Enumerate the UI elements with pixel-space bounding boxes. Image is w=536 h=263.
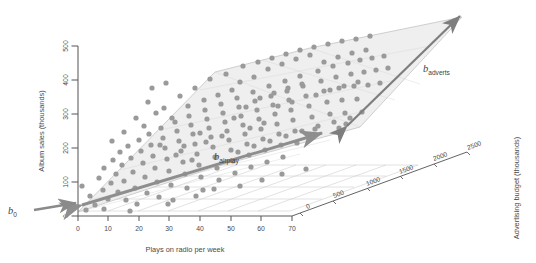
plane-surface — [78, 17, 462, 212]
y-axis-title: Album sales (thousands) — [37, 90, 46, 171]
z-axis-spine — [292, 152, 467, 216]
y-tick-label-400: 400 — [62, 74, 69, 86]
y-tick-label-300: 300 — [62, 108, 69, 120]
regression-plane — [78, 17, 462, 212]
y-tick-label-100: 100 — [62, 176, 69, 188]
x-axis: 0 10 20 30 40 50 60 70 Plays on radio pe… — [76, 216, 296, 254]
x-tick-label-10: 10 — [104, 225, 112, 232]
x-tick-label-70: 70 — [288, 225, 296, 232]
x-tick-label-0: 0 — [76, 225, 80, 232]
b0-arrow — [34, 203, 76, 210]
b-airplay-subscript: airplay — [219, 157, 239, 165]
z-axis-ticks — [300, 152, 470, 216]
y-tick-label-500: 500 — [62, 40, 69, 52]
y-axis: 0 100 200 300 400 500 Album sales (thous… — [37, 40, 78, 218]
x-axis-ticks — [78, 216, 292, 221]
x-tick-label-30: 30 — [165, 225, 173, 232]
b-adverts-subscript: adverts — [428, 69, 450, 76]
b-adverts-label: badverts — [423, 63, 451, 76]
y-tick-label-0: 0 — [62, 214, 69, 218]
x-axis-title: Plays on radio per week — [146, 245, 225, 254]
x-tick-label-40: 40 — [196, 225, 204, 232]
y-axis-ticks — [72, 46, 79, 216]
x-tick-label-50: 50 — [227, 225, 235, 232]
b0-label: b0 — [8, 205, 17, 218]
x-tick-label-60: 60 — [257, 225, 265, 232]
z-tick-label-2500: 2500 — [466, 139, 482, 151]
x-tick-label-20: 20 — [135, 225, 143, 232]
plot-canvas: 0 100 200 300 400 500 Album sales (thous… — [0, 0, 536, 263]
z-tick-label-1000: 1000 — [365, 175, 381, 187]
z-axis-title: Advertising budget (thousands) — [512, 137, 521, 239]
regression-plane-figure: 0 100 200 300 400 500 Album sales (thous… — [0, 0, 536, 263]
b0-subscript: 0 — [13, 211, 17, 218]
y-tick-label-200: 200 — [62, 142, 69, 154]
z-tick-label-0: 0 — [305, 202, 311, 210]
z-axis: 0 500 1000 1500 2000 2500 Advertising bu… — [292, 137, 521, 239]
